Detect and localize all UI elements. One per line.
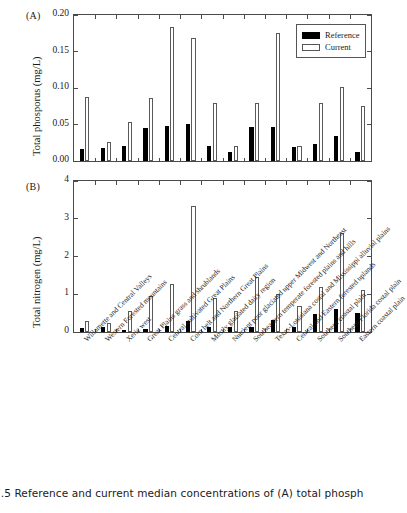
y-tick-label: 0 bbox=[64, 325, 69, 335]
legend: Reference Current bbox=[296, 24, 366, 58]
bar-reference bbox=[292, 147, 296, 161]
legend-swatch-reference bbox=[302, 32, 320, 39]
bar-reference bbox=[101, 148, 105, 161]
bar-reference bbox=[122, 146, 126, 161]
bar-reference bbox=[355, 152, 359, 161]
y-tick-label: 0.00 bbox=[52, 154, 69, 164]
bar-current bbox=[276, 33, 280, 161]
bar-reference bbox=[143, 128, 147, 161]
y-tick-label: 3 bbox=[64, 212, 69, 222]
y-tick-label: 0.10 bbox=[52, 81, 69, 91]
bar-current bbox=[191, 38, 195, 161]
y-tick-label: 0.05 bbox=[52, 118, 69, 128]
bar-reference bbox=[228, 152, 232, 161]
bar-reference bbox=[186, 124, 190, 161]
bar-current bbox=[107, 142, 111, 161]
bar-current bbox=[85, 97, 89, 161]
bar-current bbox=[297, 146, 301, 161]
bar-current bbox=[319, 103, 323, 161]
bar-current bbox=[361, 106, 365, 161]
legend-item-current: Current bbox=[302, 41, 359, 53]
bar-current bbox=[340, 87, 344, 161]
y-tick-label: 4 bbox=[64, 174, 69, 184]
y-tick-label: 0.15 bbox=[52, 45, 69, 55]
bar-reference bbox=[313, 144, 317, 161]
bar-reference bbox=[249, 127, 253, 161]
bar-reference bbox=[165, 126, 169, 161]
y-tick-label: 1 bbox=[64, 287, 69, 297]
legend-label-current: Current bbox=[325, 42, 351, 52]
bar-current bbox=[255, 103, 259, 161]
y-tick-label: 0.20 bbox=[52, 8, 69, 18]
bar-reference bbox=[80, 149, 84, 161]
legend-label-reference: Reference bbox=[325, 30, 359, 40]
bar-current bbox=[234, 146, 238, 161]
bar-reference bbox=[207, 146, 211, 161]
figure-caption: 7.5 Reference and current median concent… bbox=[0, 487, 391, 499]
y-tick-label: 2 bbox=[64, 250, 69, 260]
panel-a-y-axis-title: Total phosporus (mg/L) bbox=[31, 56, 42, 156]
bar-current bbox=[128, 122, 132, 161]
bar-current bbox=[170, 27, 174, 161]
bar-reference bbox=[271, 127, 275, 161]
legend-item-reference: Reference bbox=[302, 29, 359, 41]
bar-reference bbox=[334, 136, 338, 161]
bar-current bbox=[213, 103, 217, 161]
panel-a-label: (A) bbox=[26, 10, 40, 21]
panel-b-y-axis-title: Total nitrogen (mg/L) bbox=[31, 237, 42, 328]
panel-b-label: (B) bbox=[26, 181, 40, 192]
bar-reference bbox=[80, 328, 84, 332]
bar-reference bbox=[122, 330, 126, 332]
legend-swatch-current bbox=[302, 44, 320, 51]
bar-current bbox=[149, 98, 153, 162]
